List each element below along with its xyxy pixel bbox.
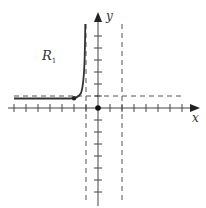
graph-figure: y x R1	[0, 0, 206, 208]
x-axis-label: x	[192, 111, 199, 125]
y-axis-label: y	[105, 9, 113, 23]
region-label-letter: R	[41, 48, 52, 63]
coordinate-plane: y x R1	[0, 0, 206, 208]
origin-point	[95, 105, 101, 111]
region-label-subscript: 1	[52, 57, 56, 65]
x-axis	[8, 104, 200, 112]
region-label: R1	[41, 48, 56, 65]
marked-point	[72, 96, 76, 100]
y-axis-arrow-icon	[94, 12, 102, 22]
